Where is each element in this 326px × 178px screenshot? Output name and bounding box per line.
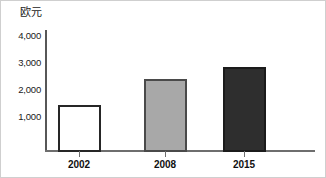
x-tickmark-2015: [244, 151, 245, 157]
y-axis-line: [45, 30, 47, 152]
plot-area: 4,000 3,000 2,000 1,000 2002 2008 2015: [1, 1, 326, 178]
x-tickmark-2008: [165, 151, 166, 157]
y-tick-label-2000: 2,000: [9, 85, 41, 95]
y-tick-label-3000: 3,000: [9, 58, 41, 68]
bar-2015: [223, 67, 266, 152]
x-tick-label-2008: 2008: [135, 159, 195, 170]
y-tick-label-1000: 1,000: [9, 112, 41, 122]
bar-2008: [144, 79, 187, 152]
x-tick-label-2015: 2015: [214, 159, 274, 170]
bar-chart-figure: 欧元 4,000 3,000 2,000 1,000 2002 2008 201…: [0, 0, 326, 178]
bar-2002: [58, 105, 101, 152]
x-tickmark-2002: [79, 151, 80, 157]
y-tick-label-4000: 4,000: [9, 31, 41, 41]
x-tick-label-2002: 2002: [49, 159, 109, 170]
